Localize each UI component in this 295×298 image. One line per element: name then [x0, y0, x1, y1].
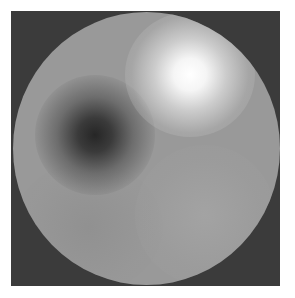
- figure: [0, 0, 295, 298]
- intensity-disc: [13, 12, 280, 285]
- dark-spot: [35, 75, 155, 195]
